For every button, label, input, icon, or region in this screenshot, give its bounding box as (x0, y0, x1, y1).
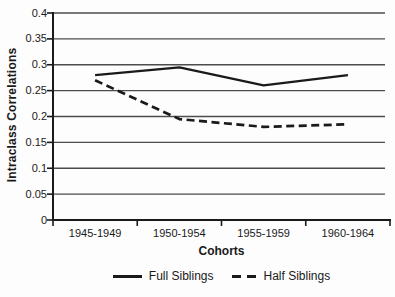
legend-label-half-siblings: Half Siblings (264, 269, 331, 283)
legend: Full Siblings Half Siblings (53, 269, 390, 283)
dashed-line-swatch (232, 275, 257, 278)
y-tick-label: 0.05 (0, 188, 47, 201)
series-line-dashed (95, 80, 348, 127)
legend-label-full-siblings: Full Siblings (149, 269, 214, 283)
y-tick-label: 0.1 (0, 162, 47, 175)
x-axis-title: Cohorts (53, 244, 390, 258)
chart-figure: Intraclass Correlations 00.050.10.150.20… (0, 0, 395, 297)
legend-item-half-siblings: Half Siblings (232, 269, 331, 283)
x-tick-label: 1960-1964 (306, 227, 390, 240)
y-tick-label: 0.2 (0, 110, 47, 123)
y-tick-label: 0 (0, 214, 47, 227)
legend-item-full-siblings: Full Siblings (113, 269, 214, 283)
x-tick-label: 1950-1954 (137, 227, 221, 240)
y-tick-label: 0.4 (0, 7, 47, 20)
y-tick-label: 0.35 (0, 32, 47, 45)
solid-line-swatch (113, 275, 142, 278)
x-tick-label: 1955-1959 (222, 227, 306, 240)
y-tick-label: 0.25 (0, 84, 47, 97)
x-tick-label: 1945-1949 (53, 227, 137, 240)
series-line-solid (95, 67, 348, 85)
y-tick-label: 0.15 (0, 136, 47, 149)
y-tick-label: 0.3 (0, 58, 47, 71)
